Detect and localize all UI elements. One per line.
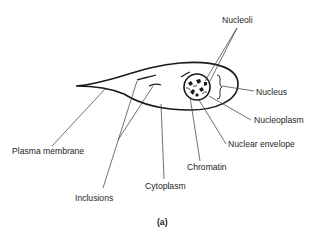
cell-diagram: Nucleoli Nucleus Nucleoplasm Nuclear env… bbox=[0, 0, 332, 244]
label-inclusions: Inclusions bbox=[75, 193, 113, 203]
label-plasma-membrane: Plasma membrane bbox=[12, 146, 84, 156]
label-nucleoli: Nucleoli bbox=[222, 15, 253, 25]
cell-outline bbox=[76, 62, 238, 110]
label-nuclear-envelope: Nuclear envelope bbox=[228, 139, 295, 149]
nucleus-bracket bbox=[217, 75, 222, 99]
label-cytoplasm: Cytoplasm bbox=[145, 181, 186, 191]
figure-caption: (a) bbox=[157, 217, 168, 227]
label-nucleoplasm: Nucleoplasm bbox=[254, 115, 304, 125]
inclusion-2 bbox=[149, 84, 161, 86]
inclusion-1 bbox=[137, 75, 156, 80]
label-nucleus: Nucleus bbox=[256, 87, 287, 97]
label-chromatin: Chromatin bbox=[187, 162, 227, 172]
